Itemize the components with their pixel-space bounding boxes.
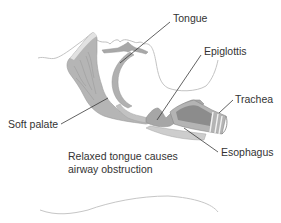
caption-line-2: airway obstruction [68, 163, 178, 176]
airway-obstruction-diagram: Tongue Epiglottis Trachea Soft palate Es… [0, 0, 281, 223]
label-epiglottis: Epiglottis [204, 45, 247, 57]
hard-palate-outline [97, 40, 144, 44]
neck-outline [40, 196, 218, 214]
label-tongue: Tongue [173, 12, 207, 24]
trachea-leader-line [219, 100, 233, 113]
caption: Relaxed tongue causes airway obstruction [68, 150, 178, 175]
label-trachea: Trachea [235, 93, 273, 105]
label-soft-palate: Soft palate [8, 118, 58, 130]
label-esophagus: Esophagus [221, 146, 274, 158]
caption-line-1: Relaxed tongue causes [68, 150, 178, 163]
tongue-top-branch [102, 42, 148, 54]
anatomy-illustration [0, 0, 281, 223]
